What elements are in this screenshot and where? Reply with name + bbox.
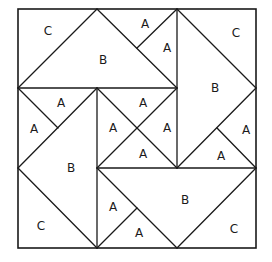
piece-label-a: A <box>141 17 150 31</box>
piece-label-a: A <box>163 41 172 55</box>
right-b-top-edge <box>177 9 256 88</box>
piece-label-a: A <box>57 96 66 110</box>
piece-label-c: C <box>44 24 52 38</box>
piece-label-b: B <box>99 53 107 67</box>
piece-label-a: A <box>135 226 144 240</box>
piece-label-b: B <box>67 161 75 175</box>
piece-label-b: B <box>181 193 189 207</box>
bottom-a-split <box>97 208 137 248</box>
left-b-bottom-edge <box>18 168 97 248</box>
top-b-left-edge <box>18 9 97 88</box>
piece-label-a: A <box>139 147 148 161</box>
piece-label-c: C <box>37 219 45 233</box>
piece-label-a: A <box>109 200 118 214</box>
piece-label-c: C <box>230 222 238 236</box>
piece-label-c: C <box>232 26 240 40</box>
piece-label-b: B <box>211 81 219 95</box>
piece-label-a: A <box>163 121 172 135</box>
quilt-block-diagram: CBAACBAAAAAABAABCAAC <box>0 0 272 262</box>
piece-label-a: A <box>30 122 39 136</box>
piece-label-a: A <box>139 96 148 110</box>
piece-label-a: A <box>217 149 226 163</box>
piece-label-a: A <box>109 121 118 135</box>
bottom-b-right-edge <box>177 168 256 248</box>
piece-label-a: A <box>242 123 251 137</box>
